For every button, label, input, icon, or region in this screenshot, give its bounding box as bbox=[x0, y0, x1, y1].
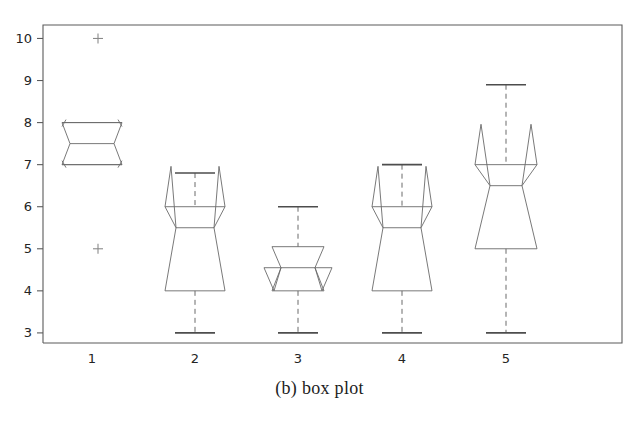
upper-left-wing bbox=[372, 166, 378, 206]
upper-left-wing bbox=[475, 124, 481, 164]
upper-right-wing bbox=[219, 166, 225, 206]
y-tick-label: 6 bbox=[24, 199, 32, 214]
upper-right-wing bbox=[531, 124, 537, 164]
upper-left-wing-inner bbox=[481, 124, 490, 185]
box-body bbox=[165, 207, 225, 291]
y-tick-label: 10 bbox=[15, 31, 32, 46]
box-plot-4 bbox=[372, 165, 432, 333]
box-series bbox=[62, 33, 537, 332]
x-axis-ticks: 12345 bbox=[88, 351, 510, 366]
box-plot-canvas: 345678910 12345 bbox=[0, 0, 639, 430]
upper-left-wing-inner bbox=[378, 166, 383, 227]
box-plot-1 bbox=[62, 33, 122, 253]
x-tick-label: 4 bbox=[398, 351, 406, 366]
box-body bbox=[475, 165, 537, 249]
y-tick-label: 9 bbox=[24, 73, 32, 88]
y-axis-ticks: 345678910 bbox=[15, 31, 43, 340]
y-tick-label: 4 bbox=[24, 283, 32, 298]
box-plot-5 bbox=[475, 85, 537, 333]
upper-left-wing bbox=[165, 166, 171, 206]
plot-frame bbox=[43, 25, 622, 343]
x-tick-label: 1 bbox=[88, 351, 96, 366]
figure-caption: (b) box plot bbox=[0, 378, 639, 399]
box-plot-3 bbox=[264, 207, 332, 333]
box-plot-2 bbox=[165, 166, 225, 333]
upper-left-wing-inner bbox=[171, 166, 176, 227]
upper-right-wing-inner bbox=[522, 124, 531, 185]
x-tick-label: 2 bbox=[191, 351, 199, 366]
y-tick-label: 5 bbox=[24, 241, 32, 256]
y-tick-label: 8 bbox=[24, 115, 32, 130]
plot-border bbox=[43, 25, 622, 343]
x-tick-label: 5 bbox=[502, 351, 510, 366]
upper-right-wing-inner bbox=[214, 166, 219, 227]
box-body bbox=[372, 207, 432, 291]
box-plot-figure: 345678910 12345 (b) box plot bbox=[0, 0, 639, 430]
y-tick-label: 3 bbox=[24, 325, 32, 340]
x-tick-label: 3 bbox=[294, 351, 302, 366]
upper-right-wing bbox=[426, 166, 432, 206]
lower-left-flare bbox=[264, 268, 281, 291]
y-tick-label: 7 bbox=[24, 157, 32, 172]
lower-right-flare bbox=[315, 268, 332, 291]
box-body bbox=[272, 247, 324, 291]
upper-right-wing-inner bbox=[421, 166, 426, 227]
